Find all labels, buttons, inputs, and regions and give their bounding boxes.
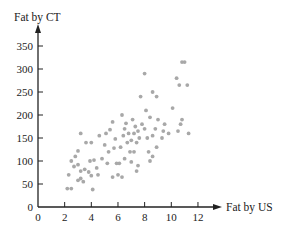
data-point (135, 141, 139, 145)
data-point (156, 118, 160, 122)
data-point (139, 95, 143, 99)
data-point (144, 109, 148, 113)
data-point (92, 158, 96, 162)
axes (35, 24, 222, 210)
y-tick-label: 50 (22, 178, 34, 190)
data-point (121, 134, 125, 138)
data-point (124, 121, 128, 125)
data-point (79, 132, 83, 136)
data-point (104, 132, 108, 136)
y-tick-label: 250 (17, 86, 34, 98)
data-point (163, 122, 167, 126)
data-point (135, 169, 139, 173)
x-tick-label: 0 (35, 211, 41, 223)
y-tick-label: 150 (17, 132, 34, 144)
data-point (100, 157, 104, 161)
data-point (136, 164, 140, 168)
data-point (125, 141, 129, 145)
data-point (116, 173, 120, 177)
data-point (89, 141, 93, 145)
data-point (148, 115, 152, 119)
x-tick-label: 10 (166, 211, 178, 223)
data-point (97, 134, 101, 138)
scatter-chart: 024681012 050100150200250300350 Fat by C… (0, 0, 286, 231)
data-point (69, 159, 73, 163)
y-tick-label: 300 (17, 63, 34, 75)
y-axis-arrow-icon (35, 24, 41, 33)
x-tick-label: 8 (142, 211, 148, 223)
data-point (129, 138, 133, 142)
data-point (151, 134, 155, 138)
data-point (180, 118, 184, 122)
data-point (131, 118, 135, 122)
data-point (88, 159, 92, 163)
data-point (151, 90, 155, 94)
data-point (132, 150, 136, 154)
data-point (187, 132, 191, 136)
x-tick-label: 4 (89, 211, 95, 223)
data-point (76, 149, 80, 153)
data-points (65, 60, 190, 191)
data-point (67, 173, 71, 177)
data-point (177, 83, 181, 87)
data-point (81, 180, 85, 184)
data-point (127, 132, 131, 136)
data-point (105, 161, 109, 165)
data-point (65, 187, 69, 191)
y-tick-label: 350 (17, 40, 34, 52)
y-ticks: 050100150200250300350 (17, 40, 44, 213)
data-point (132, 132, 136, 136)
data-point (123, 127, 127, 131)
x-tick-label: 2 (62, 211, 68, 223)
data-point (145, 136, 149, 140)
data-point (84, 141, 88, 145)
data-point (147, 150, 151, 154)
data-point (79, 169, 83, 173)
data-point (175, 76, 179, 80)
x-tick-label: 12 (192, 211, 203, 223)
data-point (155, 95, 159, 99)
data-point (185, 83, 189, 87)
data-point (87, 170, 91, 174)
data-point (120, 175, 124, 179)
data-point (176, 129, 180, 133)
data-point (113, 137, 117, 141)
data-point (111, 175, 115, 179)
data-point (112, 146, 116, 150)
data-point (128, 150, 132, 154)
data-point (143, 127, 147, 131)
data-point (83, 167, 87, 171)
data-point (129, 160, 133, 164)
data-point (72, 165, 76, 169)
data-point (89, 174, 93, 178)
y-axis-title: Fat by CT (14, 11, 61, 24)
x-ticks: 024681012 (35, 202, 203, 223)
y-tick-label: 0 (28, 201, 34, 213)
data-point (79, 177, 83, 181)
data-point (103, 143, 107, 147)
data-point (117, 161, 121, 165)
data-point (148, 159, 152, 163)
data-point (160, 136, 164, 140)
data-point (73, 155, 77, 159)
data-point (155, 145, 159, 149)
data-point (140, 122, 144, 126)
y-tick-label: 100 (17, 155, 34, 167)
data-point (161, 129, 165, 133)
x-tick-label: 6 (115, 211, 121, 223)
data-point (95, 166, 99, 170)
y-tick-label: 200 (17, 109, 34, 121)
x-axis-title: Fat by US (226, 201, 273, 214)
data-point (69, 187, 73, 191)
data-point (120, 113, 124, 117)
data-point (91, 188, 95, 192)
data-point (108, 128, 112, 132)
data-point (153, 127, 157, 131)
data-point (107, 150, 111, 154)
data-point (76, 163, 80, 167)
data-point (137, 136, 141, 140)
data-point (119, 145, 123, 149)
data-point (111, 120, 115, 124)
data-point (179, 122, 183, 126)
data-point (171, 106, 175, 110)
